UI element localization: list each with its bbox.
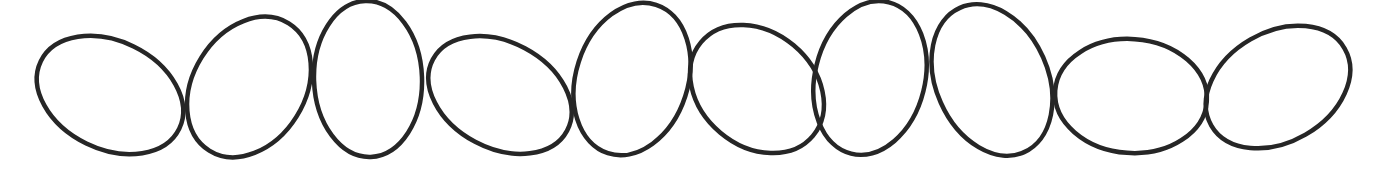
- ellipse-row-drawing: [0, 0, 1373, 178]
- ellipse-10: [1184, 1, 1372, 173]
- ellipse-2: [162, 0, 336, 178]
- ellipse-3: [311, 0, 424, 159]
- ellipse-6: [664, 0, 849, 178]
- ellipse-8: [909, 0, 1076, 175]
- ellipse-5: [555, 0, 710, 170]
- drawing-canvas: [0, 0, 1373, 178]
- ellipse-9: [1051, 34, 1211, 158]
- ellipse-4: [408, 13, 592, 178]
- ellipse-1: [17, 13, 203, 178]
- ellipse-chain: [17, 0, 1372, 178]
